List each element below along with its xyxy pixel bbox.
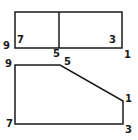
top-vertex-label-5: 5 [53, 49, 60, 59]
top-vertex-label-1: 1 [124, 50, 131, 60]
front-vertex-label-3: 3 [125, 125, 132, 135]
front-vertex-label-7: 7 [6, 119, 13, 129]
front-vertex-label-1: 1 [125, 94, 132, 104]
top-vertex-label-7: 7 [17, 35, 24, 45]
front-vertex-label-9: 9 [5, 59, 12, 69]
front-view-outline [15, 65, 123, 124]
top-vertex-label-9: 9 [3, 41, 10, 51]
top-vertex-label-3: 3 [109, 35, 116, 45]
front-vertex-label-5: 5 [64, 57, 71, 67]
orthographic-drawing [0, 0, 138, 140]
top-view-outline [15, 12, 122, 48]
